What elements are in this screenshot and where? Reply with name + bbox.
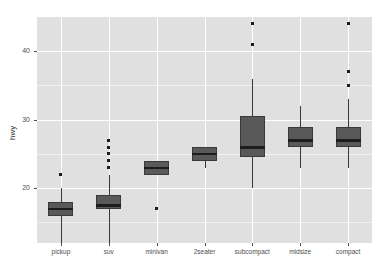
median-line xyxy=(336,139,361,142)
x-tick-mark xyxy=(205,243,206,246)
whisker-upper xyxy=(348,99,349,126)
y-tick-mark xyxy=(34,120,37,121)
y-axis-title: hwy xyxy=(9,126,17,140)
x-tick-mark xyxy=(61,243,62,246)
x-tick-mark xyxy=(348,243,349,246)
outlier-point[interactable] xyxy=(347,70,350,73)
y-tick-mark xyxy=(34,188,37,189)
x-tick-mark xyxy=(109,243,110,246)
y-tick-label: 30 xyxy=(14,116,30,123)
boxplot-chart: hwy 203040pickupsuvminivan2seatersubcomp… xyxy=(0,0,380,279)
plot-panel xyxy=(37,17,372,243)
outlier-point[interactable] xyxy=(347,84,350,87)
x-tick-mark xyxy=(300,243,301,246)
box-rect[interactable] xyxy=(336,127,361,148)
y-tick-mark xyxy=(34,51,37,52)
x-tick-mark xyxy=(157,243,158,246)
x-tick-mark xyxy=(252,243,253,246)
y-tick-label: 40 xyxy=(14,47,30,54)
box-group[interactable] xyxy=(37,17,372,243)
y-tick-label: 20 xyxy=(14,184,30,191)
whisker-lower xyxy=(348,147,349,168)
outlier-point[interactable] xyxy=(347,22,350,25)
x-tick-label-compact: compact xyxy=(318,249,378,256)
